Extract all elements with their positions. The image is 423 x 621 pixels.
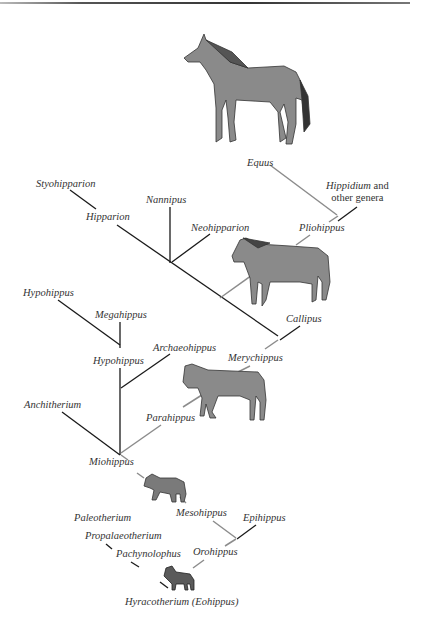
branch-parahippus bbox=[121, 425, 161, 453]
label-hippidium-and: and bbox=[371, 180, 389, 191]
label-hippidium-and-other-genera: Hippidium and other genera bbox=[326, 180, 389, 204]
label-pliohippus: Pliohippus bbox=[299, 222, 345, 233]
merychippus-horse-illustration bbox=[183, 364, 266, 420]
branch-hippidium bbox=[338, 207, 357, 221]
pliohippus-horse-illustration bbox=[232, 238, 330, 306]
branch-orohippus bbox=[193, 560, 204, 568]
branch-propalaeotherium bbox=[131, 562, 139, 567]
label-propalaeotherium: Propalaeotherium bbox=[85, 530, 162, 541]
label-callipus: Callipus bbox=[286, 313, 322, 324]
branch-orohippus-link bbox=[225, 539, 236, 546]
label-epihippus: Epihippus bbox=[243, 512, 286, 523]
label-megahippus: Megahippus bbox=[95, 309, 147, 320]
label-hyracotherium: Hyracotherium (Eohippus) bbox=[125, 596, 238, 607]
branch-anchitherium bbox=[62, 412, 120, 455]
mesohippus-horse-illustration bbox=[144, 474, 186, 502]
branch-mesohippus bbox=[213, 521, 236, 538]
branch-neohipparion bbox=[172, 234, 210, 262]
label-pachynolophus: Pachynolophus bbox=[116, 548, 181, 559]
branch-pliohippus bbox=[296, 235, 310, 245]
branch-hypohippus-top bbox=[58, 300, 120, 345]
branch-merychippus-link bbox=[265, 340, 278, 349]
label-miohippus: Miohippus bbox=[89, 456, 134, 467]
label-hipparion: Hipparion bbox=[86, 211, 130, 222]
label-neohipparion: Neohipparion bbox=[191, 222, 249, 233]
branch-miohippus-to-mesohippus bbox=[137, 473, 144, 478]
label-hypohippus-top: Hypohippus bbox=[23, 287, 74, 298]
label-styohipparion: Styohipparion bbox=[36, 178, 96, 189]
label-other-genera: other genera bbox=[331, 192, 383, 203]
equus-horse-illustration bbox=[184, 34, 310, 144]
label-anchitherium: Anchitherium bbox=[24, 399, 81, 410]
branch-styohipparion bbox=[70, 190, 96, 209]
label-nannipus: Nannipus bbox=[146, 194, 186, 205]
label-paleotherium: Paleotherium bbox=[74, 512, 131, 523]
branch-epihippus bbox=[237, 525, 256, 539]
label-archaeohippus: Archaeohippus bbox=[153, 342, 216, 353]
label-merychippus: Merychippus bbox=[228, 352, 283, 363]
label-mesohippus: Mesohippus bbox=[176, 507, 227, 518]
branch-paleotherium bbox=[106, 544, 112, 549]
label-equus: Equus bbox=[247, 157, 273, 168]
branch-callipus bbox=[280, 326, 300, 340]
label-parahippus: Parahippus bbox=[146, 412, 195, 423]
phylogeny-tree bbox=[0, 0, 423, 621]
branch-pachynolophus bbox=[160, 582, 168, 588]
hyracotherium-horse-illustration bbox=[164, 566, 194, 590]
label-hypohippus-mid: Hypohippus bbox=[93, 355, 144, 366]
label-orohippus: Orohippus bbox=[193, 546, 238, 557]
label-hippidium: Hippidium bbox=[326, 180, 371, 191]
